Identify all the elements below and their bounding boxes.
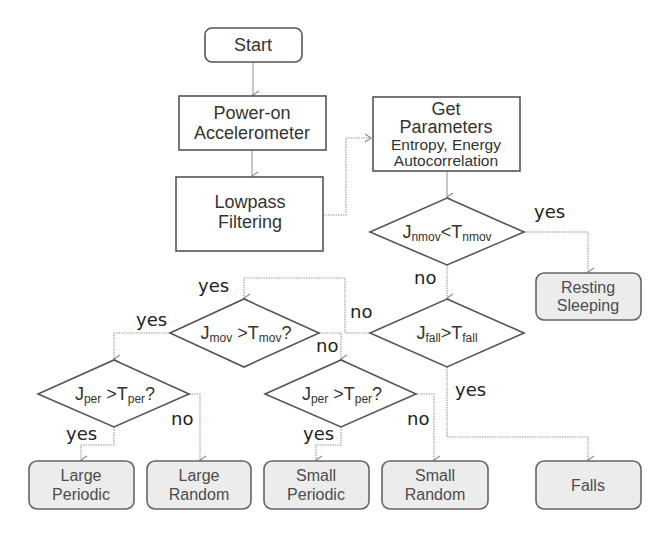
result-small-periodic-line1: Small xyxy=(296,467,336,484)
result-large-random: Large Random xyxy=(147,461,251,509)
node-power-on: Power-on Accelerometer xyxy=(179,96,326,150)
label-fall-yes: yes xyxy=(455,379,486,400)
node-power-on-line2: Accelerometer xyxy=(194,123,310,143)
result-large-random-line1: Large xyxy=(179,467,220,484)
label-mov-entry-yes: yes xyxy=(198,275,229,296)
label-per-left-yes: yes xyxy=(66,423,97,444)
node-lowpass-line1: Lowpass xyxy=(214,192,285,212)
result-small-random-line2: Random xyxy=(405,486,465,503)
result-large-periodic-line1: Large xyxy=(61,467,102,484)
result-resting-sleeping: Resting Sleeping xyxy=(536,273,641,320)
result-large-random-line2: Random xyxy=(169,486,229,503)
result-small-periodic: Small Periodic xyxy=(264,461,369,509)
activity-classification-flowchart: Start Power-on Accelerometer Lowpass Fil… xyxy=(0,0,670,539)
label-per-left-no: no xyxy=(171,408,193,429)
label-per-mid-no: no xyxy=(407,408,429,429)
result-small-random-line1: Small xyxy=(415,467,455,484)
node-start: Start xyxy=(205,28,302,62)
label-mov-yes: yes xyxy=(136,309,167,330)
result-small-random: Small Random xyxy=(382,461,488,509)
edge-nmov-resting xyxy=(524,232,588,272)
label-nmov-no: no xyxy=(414,267,436,288)
edge-lowpass-getparams xyxy=(323,138,371,215)
decision-per-left: Jper >Tper? xyxy=(38,360,189,427)
node-power-on-line1: Power-on xyxy=(213,103,290,123)
result-small-periodic-line2: Periodic xyxy=(287,486,345,503)
node-get-parameters-line3: Entropy, Energy xyxy=(391,136,501,153)
edge-mov-perleft xyxy=(114,333,170,359)
node-get-parameters-line2: Parameters xyxy=(399,117,492,137)
label-mov-no: no xyxy=(316,335,338,356)
result-falls-label: Falls xyxy=(571,477,605,494)
node-get-parameters-line1: Get xyxy=(431,99,460,119)
decision-fall: Jfall>Tfall xyxy=(370,299,524,367)
node-lowpass: Lowpass Filtering xyxy=(176,177,323,251)
node-get-parameters: Get Parameters Entropy, Energy Autocorre… xyxy=(373,97,520,171)
result-resting-line2: Sleeping xyxy=(557,297,619,314)
decision-mov: Jmov >Tmov? xyxy=(170,299,319,367)
label-per-mid-yes: yes xyxy=(303,423,334,444)
node-lowpass-line2: Filtering xyxy=(218,212,282,232)
label-fall-no: no xyxy=(350,301,372,322)
node-get-parameters-line4: Autocorrelation xyxy=(394,152,498,169)
decision-per-mid: Jper >Tper? xyxy=(265,360,416,427)
decision-nmov: Jnmov<Tnmov xyxy=(370,198,524,265)
node-start-label: Start xyxy=(234,35,272,55)
result-large-periodic: Large Periodic xyxy=(29,461,134,509)
result-resting-line1: Resting xyxy=(561,279,615,296)
result-falls: Falls xyxy=(536,461,641,509)
label-nmov-yes: yes xyxy=(534,201,565,222)
result-large-periodic-line2: Periodic xyxy=(52,486,110,503)
